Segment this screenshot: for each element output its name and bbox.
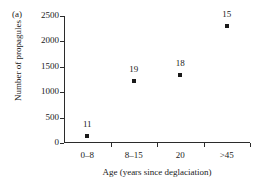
y-tick-mark [60, 67, 64, 68]
y-tick-label: 2500 [41, 10, 59, 21]
data-point [225, 24, 229, 28]
figure-panel: (a) 05001000150020002500 0–88–1520>45 11… [0, 0, 261, 184]
y-tick-label: 0 [55, 137, 60, 148]
x-axis-title: Age (years since deglaciation) [64, 167, 250, 178]
plot-area: 05001000150020002500 0–88–1520>45 111918… [64, 16, 250, 143]
y-tick-mark [60, 41, 64, 42]
x-tick-mark [157, 143, 158, 147]
y-tick-mark [60, 92, 64, 93]
data-point-label: 18 [176, 58, 185, 69]
y-tick-label: 1000 [41, 86, 59, 97]
y-tick-label: 500 [46, 112, 60, 123]
data-point [132, 79, 136, 83]
data-point-label: 11 [83, 119, 92, 130]
x-tick-label: 0–8 [81, 150, 95, 161]
y-tick-mark [60, 143, 64, 144]
x-tick-mark [250, 143, 251, 147]
y-tick-mark [60, 118, 64, 119]
y-tick-label: 1500 [41, 61, 59, 72]
data-point-label: 19 [129, 64, 138, 75]
x-tick-label: 20 [176, 150, 185, 161]
x-tick-mark [204, 143, 205, 147]
x-tick-label: 8–15 [125, 150, 143, 161]
y-tick-mark [60, 16, 64, 17]
y-tick-label: 2000 [41, 35, 59, 46]
data-point [85, 134, 89, 138]
x-tick-label: >45 [220, 150, 234, 161]
data-point-label: 15 [222, 9, 231, 20]
data-point [178, 73, 182, 77]
x-tick-mark [111, 143, 112, 147]
y-axis-line [64, 16, 65, 143]
y-axis-title: Number of propagules [13, 5, 24, 117]
